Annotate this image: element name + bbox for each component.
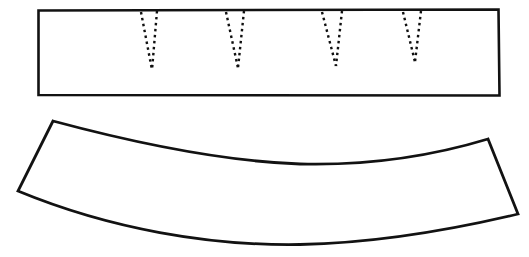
pattern-diagram-svg xyxy=(0,0,529,257)
straight-band-piece xyxy=(39,10,500,96)
pattern-diagram-canvas xyxy=(0,0,529,257)
curved-band-piece xyxy=(18,121,518,245)
curved-band-outline xyxy=(18,121,518,245)
straight-band-outline xyxy=(39,10,500,96)
